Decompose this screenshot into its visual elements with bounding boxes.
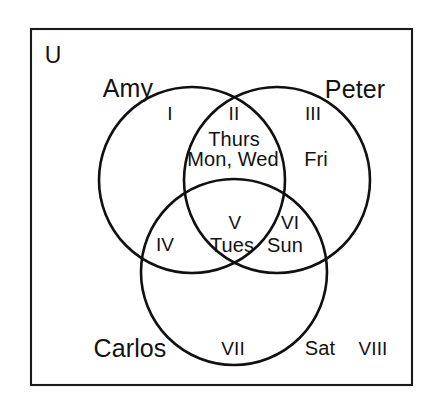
universal-set-label: U <box>45 44 62 67</box>
element-label-sat: Sat <box>305 338 335 358</box>
region-numeral-iv: IV <box>156 235 174 254</box>
element-label-mon-wed: Mon, Wed <box>187 149 279 169</box>
venn-diagram-figure: U Amy Peter Carlos I II III IV V VI VII … <box>0 0 437 405</box>
set-label-carlos: Carlos <box>94 336 167 361</box>
region-numeral-v: V <box>229 213 242 232</box>
element-label-fri: Fri <box>304 149 328 169</box>
region-numeral-viii: VIII <box>359 339 388 358</box>
region-numeral-vii: VII <box>221 339 245 358</box>
region-numeral-vi: VI <box>281 213 299 232</box>
set-label-amy: Amy <box>103 76 153 101</box>
set-circle-amy <box>99 87 285 273</box>
element-label-tues: Tues <box>210 235 254 255</box>
element-label-thurs: Thurs <box>208 129 260 149</box>
region-numeral-i: I <box>167 104 172 123</box>
element-label-sun: Sun <box>267 235 303 255</box>
set-label-peter: Peter <box>325 77 385 102</box>
region-numeral-ii: II <box>229 104 240 123</box>
region-numeral-iii: III <box>305 104 321 123</box>
